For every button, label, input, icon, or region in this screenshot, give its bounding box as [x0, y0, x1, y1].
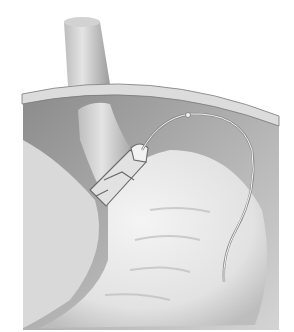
- medical-illustration: [0, 0, 294, 332]
- tubing-tip: [186, 113, 191, 118]
- esophagus-upper: [64, 19, 110, 86]
